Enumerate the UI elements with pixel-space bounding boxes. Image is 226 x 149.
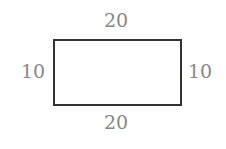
- rectangle-shape: [53, 39, 182, 106]
- right-side-label: 10: [188, 62, 212, 81]
- top-side-label: 20: [104, 11, 128, 30]
- left-side-label: 10: [21, 62, 45, 81]
- bottom-side-label: 20: [104, 113, 128, 132]
